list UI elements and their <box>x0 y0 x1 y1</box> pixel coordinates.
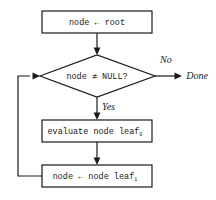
node-advance-subscript: 1 <box>134 177 137 183</box>
flowchart-svg: node ← root node ≠ NULL? evaluate node l… <box>0 0 216 200</box>
edge-label-yes: Yes <box>102 101 115 112</box>
edge-label-no: No <box>159 54 172 65</box>
arrowhead-evaluate-to-advance <box>94 158 101 166</box>
edge-advance-to-decision-loop <box>18 76 42 176</box>
node-done-label: Done <box>185 70 208 81</box>
flowchart-canvas: node ← root node ≠ NULL? evaluate node l… <box>0 0 216 200</box>
node-advance-label: node ← node leaf1 <box>53 172 138 183</box>
node-evaluate-label: evaluate node leaf0 <box>48 127 143 138</box>
node-advance-text: node ← node leaf <box>53 172 135 182</box>
node-decision-label: node ≠ NULL? <box>66 72 127 82</box>
arrowhead-decision-to-evaluate <box>94 113 101 121</box>
arrowhead-decision-to-done <box>175 73 183 80</box>
node-evaluate-text: evaluate node leaf <box>48 127 140 137</box>
node-init-label: node ← root <box>69 18 125 28</box>
arrowhead-init-to-decision <box>94 48 101 56</box>
arrowhead-loop-to-decision <box>33 73 41 80</box>
node-evaluate-subscript: 0 <box>139 132 142 138</box>
